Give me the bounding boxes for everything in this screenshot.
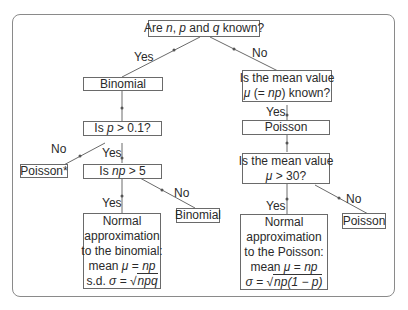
poisson-star-node: Poisson* — [20, 164, 68, 178]
text: s.d. — [86, 274, 109, 288]
var-n: n — [166, 21, 173, 35]
text: = — [128, 259, 142, 273]
yes-label-mean-known: Yes — [266, 105, 286, 119]
root-question-node: Are n, p and q known? — [148, 20, 260, 37]
text: > 0.1? — [114, 121, 151, 135]
yes-label-np: Yes — [102, 196, 122, 210]
var-np: np — [268, 86, 281, 100]
mean-30-question-node: Is the mean value μ > 30? — [242, 153, 330, 184]
text: Normal — [265, 215, 304, 230]
normal-approx-binomial-node: Normal approximation to the binomial: me… — [83, 213, 161, 289]
text: > 30? — [272, 169, 306, 183]
text: = — [290, 260, 304, 274]
text: = √ — [253, 275, 273, 289]
text: ) known? — [281, 86, 330, 100]
yes-label-root: Yes — [134, 50, 154, 64]
var-np-1-p: np(1 − p) — [273, 274, 322, 289]
mean-known-question-node: Is the mean value μ (= np) known? — [242, 70, 332, 102]
text: = √ — [116, 274, 136, 288]
p-threshold-question-node: Is p > 0.1? — [83, 121, 162, 136]
yes-label-mean-30: Yes — [266, 199, 286, 213]
var-p: p — [179, 21, 186, 35]
text: mean — [89, 259, 122, 273]
no-label-mean-30: No — [346, 192, 361, 206]
text: known? — [219, 21, 264, 35]
var-npq: npq — [137, 273, 158, 288]
text: Is the mean value — [239, 154, 334, 169]
var-np: np — [112, 164, 125, 178]
text: > 5 — [125, 164, 145, 178]
text: Is — [94, 121, 107, 135]
text: Normal — [103, 214, 142, 229]
np-threshold-question-node: Is np > 5 — [83, 164, 162, 179]
binomial-result-node: Binomial — [176, 208, 220, 223]
text: approximation — [246, 230, 321, 245]
text: (= — [250, 86, 268, 100]
var-p: p — [107, 121, 114, 135]
text: approximation — [84, 229, 159, 244]
var-sigma: σ — [246, 275, 253, 289]
no-label-root: No — [252, 46, 267, 60]
text: to the binomial: — [81, 244, 162, 259]
text: mean — [251, 260, 284, 274]
var-np: np — [304, 260, 317, 274]
text: and — [186, 21, 213, 35]
poisson-result-node: Poisson — [342, 213, 386, 229]
yes-label-p: Yes — [102, 146, 122, 160]
no-label-p: No — [51, 142, 66, 156]
text: Is the mean value — [240, 71, 335, 86]
binomial-node: Binomial — [83, 77, 163, 91]
text: to the Poisson: — [244, 245, 323, 260]
no-label-np: No — [174, 186, 189, 200]
text: Are — [144, 21, 166, 35]
normal-approx-poisson-node: Normal approximation to the Poisson: mea… — [240, 214, 328, 290]
text: Is — [99, 164, 112, 178]
var-np: np — [142, 259, 155, 273]
poisson-node: Poisson — [242, 120, 330, 135]
